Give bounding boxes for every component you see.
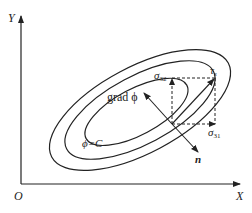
shear-stress-label: τs [210,64,217,78]
normal-label: n [195,153,201,165]
sigma32-label: σ32 [154,69,167,83]
normal-vector [172,124,198,152]
contour-outer [32,25,249,195]
shear-stress-vector [172,79,214,124]
axes: Y O X [8,11,244,203]
origin-label: O [14,189,23,203]
contour-lines [32,25,249,195]
sigma31-label: σ31 [208,126,221,140]
x-axis-label: X [235,189,244,203]
y-axis-label: Y [8,11,16,25]
gradient-vector [144,93,172,124]
contour-label: ϕ=C [82,137,103,149]
gradient-label: grad ϕ [107,90,138,104]
stress-contour-diagram: Y O X ϕ=C grad ϕ τs σ32 σ31 n [0,0,252,213]
contour-middle [51,41,229,179]
